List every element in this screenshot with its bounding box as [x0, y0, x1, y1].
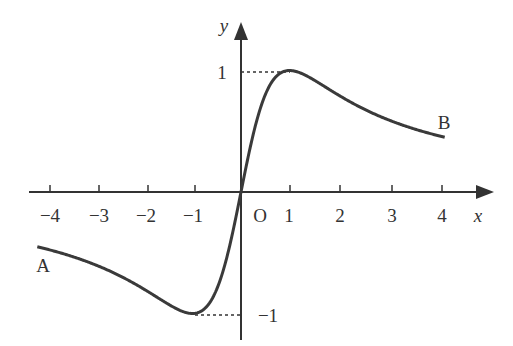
origin-label: O — [253, 205, 267, 226]
x-axis-arrow-icon — [476, 185, 494, 199]
y-axis-label: y — [218, 15, 229, 36]
function-plot: −4 −3 −2 −1 1 2 3 4 O x y 1 −1 A B — [0, 0, 513, 346]
x-tick-label: 3 — [387, 205, 397, 226]
y-tick-label-1: 1 — [217, 62, 227, 83]
x-tick-label: −1 — [183, 205, 203, 226]
point-b-label: B — [438, 112, 451, 133]
x-ticks — [50, 185, 442, 192]
x-tick-label: 2 — [335, 205, 345, 226]
y-axis-arrow-icon — [234, 22, 248, 40]
x-tick-label: −4 — [40, 205, 61, 226]
x-tick-label: 4 — [437, 205, 447, 226]
x-axis-label: x — [473, 205, 483, 226]
point-a-label: A — [36, 255, 50, 276]
x-tick-label: −2 — [136, 205, 156, 226]
chart: −4 −3 −2 −1 1 2 3 4 O x y 1 −1 A B — [0, 0, 513, 346]
x-tick-label: −3 — [89, 205, 109, 226]
x-tick-label: 1 — [284, 205, 294, 226]
y-tick-label-minus-1: −1 — [258, 305, 278, 326]
